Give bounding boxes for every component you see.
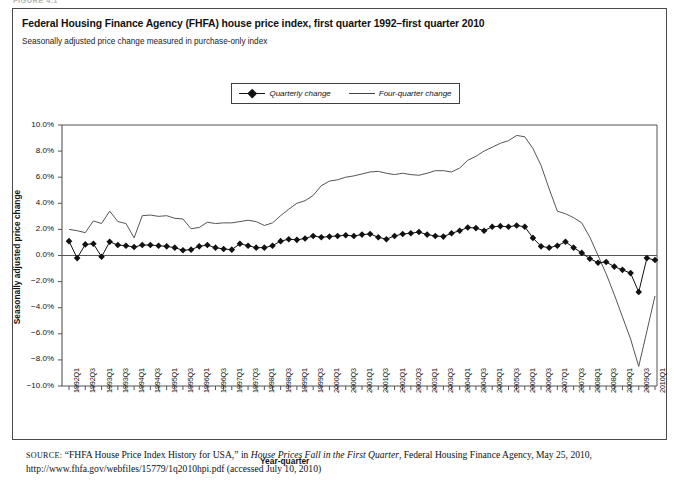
data-point-marker-quarterly-change	[123, 242, 130, 249]
x-axis-tick-label: 2004Q3	[479, 368, 488, 393]
data-point-marker-quarterly-change	[106, 238, 113, 245]
data-point-marker-quarterly-change	[139, 242, 146, 249]
source-prefix: SOURCE:	[26, 451, 62, 460]
source-note: SOURCE: “FHFA House Price Index History …	[26, 448, 656, 475]
data-point-marker-quarterly-change	[220, 246, 227, 253]
y-axis-tick-label: −2.0%	[0, 276, 54, 285]
y-axis-tick-label: −8.0%	[0, 354, 54, 363]
data-point-marker-quarterly-change	[310, 233, 317, 240]
data-point-marker-quarterly-change	[245, 242, 252, 249]
data-point-marker-quarterly-change	[253, 244, 260, 251]
x-axis-tick-label: 1992Q1	[72, 368, 81, 393]
data-point-marker-quarterly-change	[196, 243, 203, 250]
x-axis-tick-label: 2001Q3	[381, 368, 390, 393]
data-point-marker-quarterly-change	[635, 289, 642, 296]
y-axis-tick-label: 2.0%	[0, 224, 54, 233]
x-axis-tick-label: 2005Q1	[495, 368, 504, 393]
y-axis-tick-label: −4.0%	[0, 302, 54, 311]
series-line-four-quarter-change	[69, 135, 655, 366]
figure-container: FIGURE 4.1 Federal Housing Finance Agenc…	[0, 0, 674, 485]
x-axis-tick-label: 2007Q3	[577, 368, 586, 393]
data-point-marker-quarterly-change	[627, 270, 634, 277]
y-axis-tick-label: −6.0%	[0, 328, 54, 337]
data-point-marker-quarterly-change	[98, 254, 105, 261]
x-axis-tick-label: 1992Q3	[88, 368, 97, 393]
x-axis-tick-label: 2005Q3	[512, 368, 521, 393]
data-point-marker-quarterly-change	[383, 236, 390, 243]
data-point-marker-quarterly-change	[66, 238, 73, 245]
data-point-marker-quarterly-change	[611, 263, 618, 270]
data-point-marker-quarterly-change	[82, 241, 89, 248]
data-point-marker-quarterly-change	[408, 230, 415, 237]
x-axis-tick-label: 2001Q1	[365, 368, 374, 393]
data-point-marker-quarterly-change	[172, 244, 179, 251]
y-axis-tick-label: −10.0%	[0, 381, 54, 390]
data-point-marker-quarterly-change	[546, 244, 553, 251]
x-axis-tick-label: 2010Q1	[658, 368, 667, 393]
x-axis-tick-label: 2002Q1	[398, 368, 407, 393]
x-axis-tick-label: 2007Q1	[560, 368, 569, 393]
x-axis-tick-label: 1996Q3	[219, 368, 228, 393]
data-point-marker-quarterly-change	[391, 233, 398, 240]
data-point-marker-quarterly-change	[228, 246, 235, 253]
data-point-marker-quarterly-change	[294, 237, 301, 244]
data-point-marker-quarterly-change	[587, 255, 594, 262]
data-point-marker-quarterly-change	[131, 244, 138, 251]
x-axis-tick-label: 2000Q3	[349, 368, 358, 393]
data-point-marker-quarterly-change	[465, 224, 472, 231]
x-axis-tick-label: 1999Q1	[300, 368, 309, 393]
x-axis-tick-label: 2009Q3	[642, 368, 651, 393]
data-point-marker-quarterly-change	[424, 231, 431, 238]
data-point-marker-quarterly-change	[115, 242, 122, 249]
x-axis-tick-label: 1993Q3	[121, 368, 130, 393]
data-point-marker-quarterly-change	[90, 240, 97, 247]
data-point-marker-quarterly-change	[269, 242, 276, 249]
data-point-marker-quarterly-change	[212, 244, 219, 251]
x-axis-tick-label: 2003Q1	[430, 368, 439, 393]
x-axis-tick-label: 1995Q1	[170, 368, 179, 393]
data-point-marker-quarterly-change	[285, 236, 292, 243]
data-point-marker-quarterly-change	[334, 233, 341, 240]
data-point-marker-quarterly-change	[188, 246, 195, 253]
x-axis-tick-label: 1998Q1	[267, 368, 276, 393]
data-point-marker-quarterly-change	[554, 242, 561, 249]
x-axis-tick-label: 2004Q1	[463, 368, 472, 393]
data-point-marker-quarterly-change	[163, 243, 170, 250]
data-point-marker-quarterly-change	[277, 238, 284, 245]
data-point-marker-quarterly-change	[375, 234, 382, 241]
y-axis-tick-label: 6.0%	[0, 172, 54, 181]
data-point-marker-quarterly-change	[237, 240, 244, 247]
data-point-marker-quarterly-change	[481, 227, 488, 234]
chart-canvas	[0, 0, 674, 485]
data-point-marker-quarterly-change	[204, 242, 211, 249]
data-point-marker-quarterly-change	[619, 267, 626, 274]
x-axis-tick-label: 1995Q3	[186, 368, 195, 393]
data-point-marker-quarterly-change	[416, 229, 423, 236]
data-point-marker-quarterly-change	[456, 227, 463, 234]
x-axis-tick-label: 1996Q1	[202, 368, 211, 393]
x-axis-tick-label: 2000Q1	[332, 368, 341, 393]
data-point-marker-quarterly-change	[302, 235, 309, 242]
y-axis-tick-label: 10.0%	[0, 120, 54, 129]
data-point-marker-quarterly-change	[318, 234, 325, 241]
source-publication-title: House Prices Fall in the First Quarter	[251, 449, 399, 460]
x-axis-tick-label: 2006Q3	[544, 368, 553, 393]
x-axis-tick-label: 1997Q3	[251, 368, 260, 393]
data-point-marker-quarterly-change	[155, 242, 162, 249]
y-axis-tick-label: 0.0%	[0, 250, 54, 259]
data-point-marker-quarterly-change	[147, 242, 154, 249]
x-axis-tick-label: 2006Q1	[528, 368, 537, 393]
data-point-marker-quarterly-change	[399, 231, 406, 238]
x-axis-tick-label: 2003Q3	[446, 368, 455, 393]
data-point-marker-quarterly-change	[261, 244, 268, 251]
x-axis-tick-label: 1997Q1	[235, 368, 244, 393]
data-point-marker-quarterly-change	[513, 222, 520, 229]
x-axis-tick-label: 1994Q1	[137, 368, 146, 393]
data-point-marker-quarterly-change	[367, 231, 374, 238]
data-point-marker-quarterly-change	[497, 223, 504, 230]
data-point-marker-quarterly-change	[326, 233, 333, 240]
data-point-marker-quarterly-change	[448, 230, 455, 237]
x-axis-tick-label: 1993Q1	[105, 368, 114, 393]
data-point-marker-quarterly-change	[562, 238, 569, 245]
x-axis-tick-label: 1999Q3	[316, 368, 325, 393]
